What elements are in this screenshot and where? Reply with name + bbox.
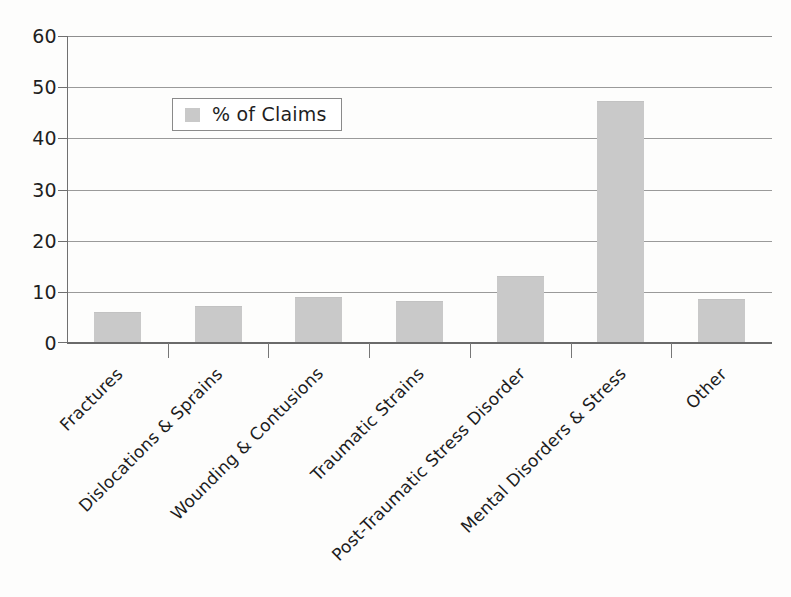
y-tick-label-10: 10 bbox=[0, 283, 57, 302]
y-tick-mark-50 bbox=[58, 87, 67, 88]
gridline-20 bbox=[67, 241, 772, 242]
x-axis-label-6: Other bbox=[683, 365, 730, 412]
y-tick-mark-0 bbox=[58, 342, 67, 343]
x-axis-label-5: Mental Disorders & Stress bbox=[458, 365, 629, 536]
y-axis-line bbox=[67, 36, 68, 343]
plot-area bbox=[67, 36, 772, 343]
legend-label-pct-of-claims: % of Claims bbox=[212, 105, 327, 124]
legend: % of Claims bbox=[172, 98, 342, 131]
gridline-10 bbox=[67, 292, 772, 293]
chart-page: 60 50 40 30 20 10 0 % of Claims Fract bbox=[0, 0, 791, 597]
gridline-50 bbox=[67, 87, 772, 88]
y-tick-label-20: 20 bbox=[0, 232, 57, 251]
y-tick-label-60: 60 bbox=[0, 27, 57, 46]
x-axis-label-4: Post-Traumatic Stress Disorder bbox=[329, 365, 528, 564]
bar-1[interactable] bbox=[195, 306, 242, 342]
bar-5[interactable] bbox=[597, 101, 644, 342]
y-tick-label-0: 0 bbox=[0, 334, 57, 353]
x-tick-6 bbox=[671, 343, 672, 358]
gridline-40 bbox=[67, 138, 772, 139]
bar-6[interactable] bbox=[698, 299, 745, 342]
x-tick-2 bbox=[268, 343, 269, 358]
y-tick-mark-10 bbox=[58, 292, 67, 293]
y-tick-label-40: 40 bbox=[0, 129, 57, 148]
y-tick-mark-60 bbox=[58, 36, 67, 37]
x-tick-5 bbox=[571, 343, 572, 358]
x-tick-3 bbox=[369, 343, 370, 358]
x-axis-label-3: Traumatic Strains bbox=[308, 365, 427, 484]
bar-3[interactable] bbox=[396, 301, 443, 342]
y-tick-mark-20 bbox=[58, 241, 67, 242]
legend-swatch-pct-of-claims bbox=[185, 108, 200, 122]
bar-4[interactable] bbox=[497, 276, 544, 342]
gridline-30 bbox=[67, 190, 772, 191]
x-axis-line bbox=[67, 342, 772, 344]
x-tick-1 bbox=[168, 343, 169, 358]
bar-2[interactable] bbox=[295, 297, 342, 342]
y-tick-mark-30 bbox=[58, 190, 67, 191]
y-tick-mark-40 bbox=[58, 138, 67, 139]
gridline-60 bbox=[67, 36, 772, 37]
x-tick-4 bbox=[470, 343, 471, 358]
y-tick-label-50: 50 bbox=[0, 78, 57, 97]
y-tick-label-30: 30 bbox=[0, 181, 57, 200]
bar-0[interactable] bbox=[94, 312, 141, 342]
x-axis-label-0: Fractures bbox=[57, 365, 126, 434]
